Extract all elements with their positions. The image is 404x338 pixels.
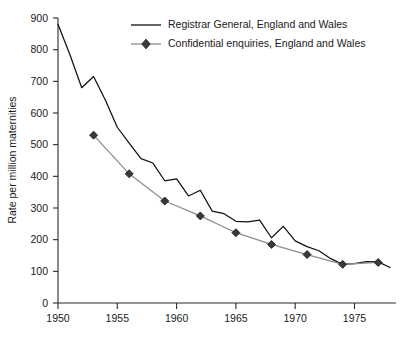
- data-point-marker: [339, 260, 347, 268]
- x-axis: 195019551960196519701975: [46, 303, 366, 324]
- y-tick-label: 600: [30, 107, 48, 119]
- y-tick-label: 800: [30, 43, 48, 55]
- chart-legend: Registrar General, England and Wales Con…: [131, 18, 366, 49]
- chart-canvas: 0100200300400500600700800900 19501955196…: [0, 0, 404, 338]
- y-axis-title: Rate per million maternities: [6, 96, 18, 223]
- y-axis: 0100200300400500600700800900: [30, 12, 58, 309]
- data-point-marker: [374, 258, 382, 266]
- x-tick-label: 1970: [284, 312, 308, 324]
- y-tick-label: 200: [30, 233, 48, 245]
- x-tick-label: 1965: [224, 312, 248, 324]
- legend-label-registrar-general: Registrar General, England and Wales: [168, 18, 347, 30]
- y-tick-label: 0: [42, 297, 48, 309]
- data-point-marker: [267, 240, 275, 248]
- series-line-confidential-enquiries: [94, 135, 379, 264]
- data-point-marker: [303, 251, 311, 259]
- series-line-registrar-general: [58, 24, 390, 267]
- y-tick-label: 500: [30, 138, 48, 150]
- data-point-marker: [232, 229, 240, 237]
- y-tick-label: 400: [30, 170, 48, 182]
- legend-label-confidential-enquiries: Confidential enquiries, England and Wale…: [168, 37, 366, 49]
- y-tick-label: 700: [30, 75, 48, 87]
- y-tick-label: 100: [30, 265, 48, 277]
- y-tick-label: 900: [30, 12, 48, 24]
- x-tick-label: 1955: [106, 312, 130, 324]
- legend-diamond-icon: [142, 39, 150, 49]
- series-markers-confidential-enquiries: [90, 131, 383, 268]
- x-tick-label: 1960: [165, 312, 189, 324]
- maternal-mortality-line-chart: 0100200300400500600700800900 19501955196…: [0, 0, 404, 338]
- y-tick-label: 300: [30, 202, 48, 214]
- x-tick-label: 1975: [343, 312, 367, 324]
- x-tick-label: 1950: [46, 312, 70, 324]
- data-point-marker: [196, 212, 204, 220]
